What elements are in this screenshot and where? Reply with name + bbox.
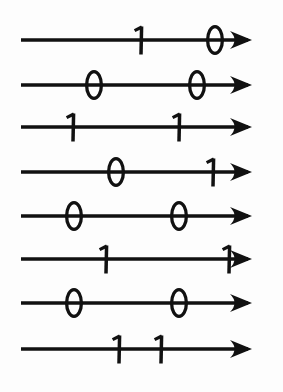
- digit-1: [60, 104, 86, 150]
- number-line-row: [0, 280, 283, 326]
- right-arrow-icon: [0, 326, 283, 372]
- digit-0: [103, 149, 129, 195]
- digit-0: [61, 193, 87, 239]
- right-arrow-icon: [0, 193, 283, 239]
- digit-0: [166, 193, 192, 239]
- digit-1: [200, 149, 226, 195]
- number-line-row: [0, 193, 283, 239]
- digit-1: [93, 236, 119, 282]
- right-arrow-icon: [0, 104, 283, 150]
- right-arrow-icon: [0, 149, 283, 195]
- digit-0: [202, 17, 228, 63]
- number-line-row: [0, 236, 283, 282]
- digit-1: [106, 326, 132, 372]
- digit-0: [81, 62, 107, 108]
- digit-1: [216, 236, 242, 282]
- binary-arrow-figure: [0, 0, 283, 392]
- digit-1: [128, 17, 154, 63]
- number-line-row: [0, 326, 283, 372]
- right-arrow-icon: [0, 62, 283, 108]
- number-line-row: [0, 17, 283, 63]
- digit-1: [166, 104, 192, 150]
- digit-0: [184, 62, 210, 108]
- digit-1: [148, 326, 174, 372]
- digit-0: [61, 280, 87, 326]
- number-line-row: [0, 62, 283, 108]
- right-arrow-icon: [0, 280, 283, 326]
- number-line-row: [0, 104, 283, 150]
- number-line-row: [0, 149, 283, 195]
- digit-0: [166, 280, 192, 326]
